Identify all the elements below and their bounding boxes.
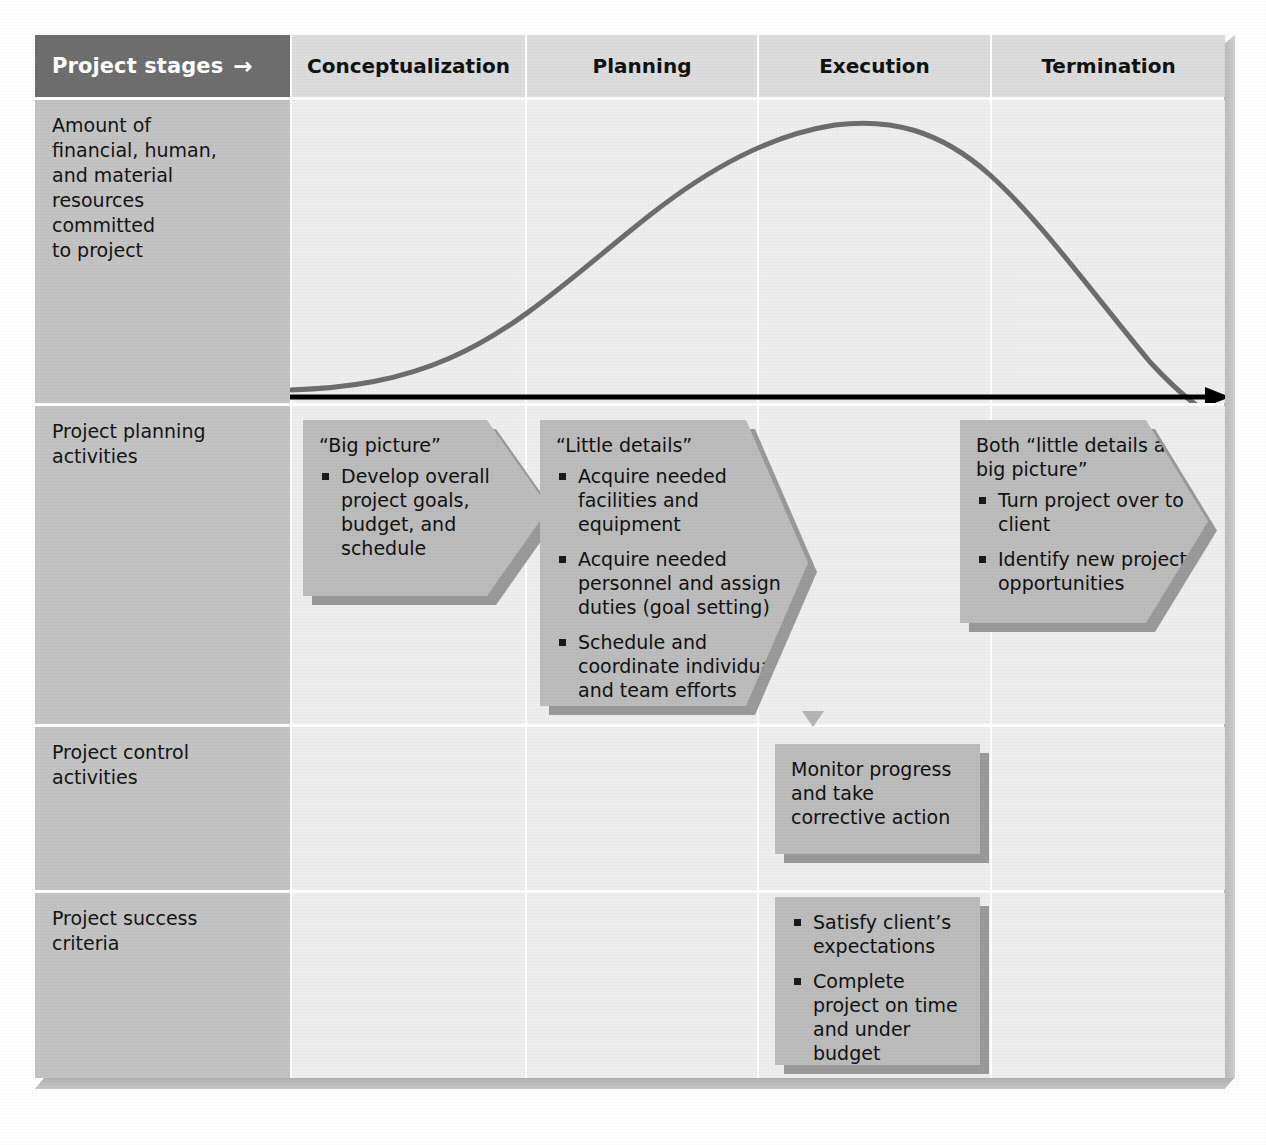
project-lifecycle-matrix: Project stages → Conceptualization Plann… — [35, 35, 1225, 1078]
bullet-square-icon — [559, 639, 566, 646]
list-item: Complete project on time and under budge… — [791, 969, 964, 1065]
cell-r4-conceptualization — [292, 893, 525, 1078]
bullet-square-icon — [794, 919, 801, 926]
shape-little-details[interactable]: “Little details” Acquire needed faciliti… — [540, 420, 808, 706]
down-arrow-stub-icon — [802, 711, 824, 727]
list-item: Acquire needed facilities and equipment — [556, 464, 792, 536]
header-project-stages-label: Project stages — [52, 54, 223, 78]
bullet-square-icon — [559, 473, 566, 480]
header-stage-planning[interactable]: Planning — [527, 35, 757, 97]
list-item-text: Identify new project opportunities — [998, 548, 1187, 594]
row-label-success-criteria: Project success criteria — [35, 893, 290, 1078]
shape-bullet-list: Turn project over to client Identify new… — [976, 488, 1192, 595]
x-axis-arrowhead-icon — [1205, 387, 1225, 403]
list-item: Identify new project opportunities — [976, 547, 1192, 595]
bullet-square-icon — [322, 473, 329, 480]
bullet-square-icon — [979, 556, 986, 563]
cell-r3-planning — [527, 727, 757, 890]
bullet-square-icon — [559, 556, 566, 563]
table-3d-bottom-edge — [35, 1078, 1234, 1089]
list-item-text: Develop overall project goals, budget, a… — [341, 465, 490, 559]
header-stage-conceptualization[interactable]: Conceptualization — [292, 35, 525, 97]
list-item: Turn project over to client — [976, 488, 1192, 536]
list-item-text: Acquire needed facilities and equipment — [578, 465, 727, 535]
list-item-text: Turn project over to client — [998, 489, 1184, 535]
table-3d-right-edge — [1224, 35, 1235, 1087]
list-item: Acquire needed personnel and assign duti… — [556, 547, 792, 619]
header-project-stages: Project stages → — [35, 35, 290, 97]
shape-bullet-list: Develop overall project goals, budget, a… — [319, 464, 533, 560]
shape-both-details-and-picture[interactable]: Both “little details and big picture” Tu… — [960, 420, 1208, 623]
shape-face: Monitor progress and take corrective act… — [775, 744, 980, 854]
cell-r4-planning — [527, 893, 757, 1078]
bullet-square-icon — [794, 978, 801, 985]
header-stage-execution[interactable]: Execution — [759, 35, 990, 97]
resource-commitment-curve-chart — [290, 100, 1225, 400]
list-item-text: Schedule and coordinate individual and t… — [578, 631, 778, 701]
shape-title: Monitor progress and take corrective act… — [791, 757, 964, 829]
bullet-square-icon — [979, 497, 986, 504]
shape-bullet-list: Acquire needed facilities and equipment … — [556, 464, 792, 702]
row-label-control-activities: Project control activities — [35, 727, 290, 890]
list-item-text: Acquire needed personnel and assign duti… — [578, 548, 781, 618]
row-label-planning-activities: Project planning activities — [35, 406, 290, 724]
cell-r4-termination — [992, 893, 1225, 1078]
list-item-text: Satisfy client’s expectations — [813, 911, 951, 957]
cell-r3-conceptualization — [292, 727, 525, 890]
shape-big-picture[interactable]: “Big picture” Develop overall project go… — [303, 420, 549, 596]
curve-svg — [290, 100, 1225, 403]
row-label-resources: Amount of financial, human, and material… — [35, 100, 290, 403]
list-item: Satisfy client’s expectations — [791, 910, 964, 958]
shape-success-criteria[interactable]: Satisfy client’s expectations Complete p… — [775, 897, 980, 1065]
header-stage-label: Termination — [1041, 54, 1175, 78]
header-stage-label: Conceptualization — [307, 54, 510, 78]
shape-bullet-list: Satisfy client’s expectations Complete p… — [791, 910, 964, 1065]
header-stage-label: Planning — [593, 54, 692, 78]
list-item-text: Complete project on time and under budge… — [813, 970, 958, 1064]
header-stage-termination[interactable]: Termination — [992, 35, 1225, 97]
header-stage-label: Execution — [819, 54, 930, 78]
list-item: Develop overall project goals, budget, a… — [319, 464, 533, 560]
right-arrow-icon: → — [233, 55, 252, 78]
curve-path — [290, 123, 1225, 403]
shape-monitor-progress[interactable]: Monitor progress and take corrective act… — [775, 744, 980, 854]
shape-face: Satisfy client’s expectations Complete p… — [775, 897, 980, 1065]
cell-r3-termination — [992, 727, 1225, 890]
